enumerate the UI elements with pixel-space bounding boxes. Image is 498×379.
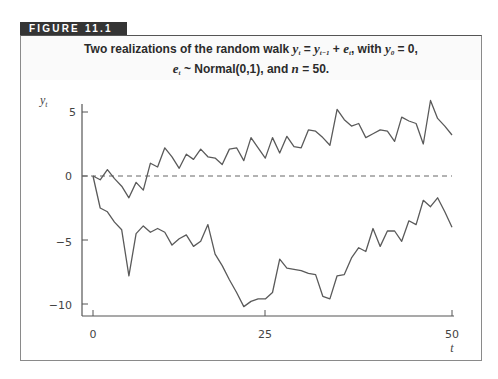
- series-lower-line: [93, 176, 452, 307]
- x-tick-label-0: 0: [90, 328, 97, 341]
- y-tick-label-0: 0: [65, 170, 72, 183]
- series-upper-line: [93, 101, 452, 198]
- y-tick-label-m5: −5: [56, 236, 72, 249]
- x-tick-label-50: 50: [445, 328, 459, 341]
- x-tick-label-25: 25: [258, 328, 272, 341]
- y-tick-label-5: 5: [69, 106, 76, 119]
- y-axis-label: yt: [39, 93, 48, 109]
- line-chart: 5 0 −5 −10 0 25 50 yt t: [0, 0, 498, 379]
- x-axis-label: t: [450, 341, 454, 355]
- y-tick-label-m10: −10: [49, 299, 72, 312]
